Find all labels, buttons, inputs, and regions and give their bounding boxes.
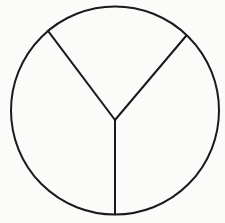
upper-right-divider: [115, 36, 186, 120]
three-sector-circle-diagram: [0, 0, 225, 223]
upper-left-divider: [48, 31, 115, 120]
